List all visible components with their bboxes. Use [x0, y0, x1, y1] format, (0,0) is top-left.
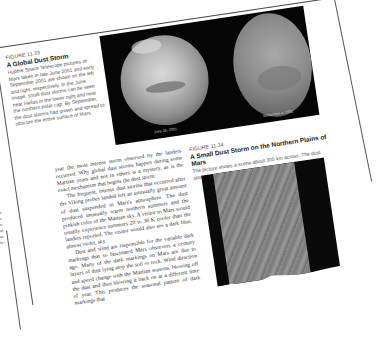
adjacent-page-text: t s n al ar ic- — [0, 210, 12, 330]
mars-september-image — [226, 8, 319, 122]
dust-storm-image — [201, 157, 340, 286]
page-edge — [331, 0, 372, 182]
figure-caption-text: Hubble Space Telescope pictures of Mars … — [7, 56, 107, 127]
mars-june-image — [114, 29, 214, 131]
textbook-page: FIGURE 11.33 A Global Dust Storm Hubble … — [0, 0, 377, 339]
image-date-left: June 26, 2001 — [154, 127, 177, 134]
dust-storm-scene — [213, 162, 311, 285]
text-fragment: ic- — [0, 240, 12, 246]
figure-11-33-caption: FIGURE 11.33 A Global Dust Storm Hubble … — [5, 41, 107, 127]
body-text: year the most intense storm observed by … — [54, 147, 202, 306]
